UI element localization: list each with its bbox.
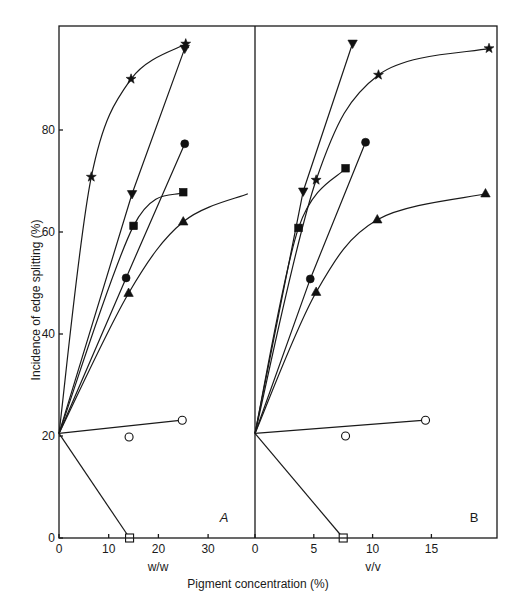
edge-splitting-chart: 0102030 051015 020406080 Incidence of ed…	[0, 0, 518, 598]
triangle-up-marker-icon	[311, 287, 320, 295]
y-axis-title: Incidence of edge splitting (%)	[29, 220, 43, 381]
panel-a-unit-label: w/w	[147, 560, 169, 574]
x-tick-label: 0	[252, 542, 259, 556]
circle-filled-marker-icon	[306, 275, 314, 283]
triangle-down-marker-icon	[127, 191, 136, 199]
panel-b-unit-label: v/v	[365, 560, 380, 574]
triangle-down-marker-icon	[348, 40, 357, 48]
x-tick-label: 5	[310, 542, 317, 556]
x-tick-label: 10	[102, 542, 116, 556]
triangle-up-series-line	[59, 194, 248, 434]
x-tick-label: 10	[366, 542, 380, 556]
triangle-down-series-line	[255, 43, 353, 433]
star-series-line	[255, 48, 489, 433]
circle-open-marker-icon	[422, 416, 430, 424]
square-open-series-line	[255, 433, 343, 538]
circle-open-series-line	[255, 420, 426, 433]
panel-b-letter: B	[470, 510, 479, 525]
square-filled-marker-icon	[342, 164, 350, 172]
square-filled-marker-icon	[179, 188, 187, 196]
square-filled-marker-icon	[295, 224, 303, 232]
x-axis-title: Pigment concentration (%)	[187, 577, 328, 591]
star-marker-icon	[311, 175, 321, 184]
triangle-down-marker-icon	[180, 45, 189, 53]
star-marker-icon	[484, 43, 494, 52]
panel-a-letter: A	[219, 510, 229, 525]
y-tick-label: 40	[42, 327, 56, 341]
panel-b: 051015	[252, 40, 494, 556]
circle-open-marker-icon	[342, 432, 350, 440]
triangle-up-marker-icon	[481, 189, 490, 197]
circle-filled-marker-icon	[362, 138, 370, 146]
triangle-up-marker-icon	[179, 217, 188, 225]
panel-a: 0102030	[56, 39, 248, 556]
circle-filled-marker-icon	[181, 140, 189, 148]
circle-filled-marker-icon	[122, 274, 130, 282]
y-tick-label: 20	[42, 429, 56, 443]
y-tick-label: 60	[42, 225, 56, 239]
triangle-up-marker-icon	[373, 215, 382, 223]
x-tick-label: 15	[425, 542, 439, 556]
triangle-up-series-line	[255, 194, 485, 434]
circle-open-series-line	[59, 420, 182, 433]
circle-filled-series-line	[255, 142, 366, 433]
x-tick-label: 20	[152, 542, 166, 556]
x-tick-label: 30	[201, 542, 215, 556]
square-open-series-line	[59, 433, 130, 538]
square-filled-marker-icon	[130, 222, 138, 230]
y-tick-label: 80	[42, 123, 56, 137]
circle-filled-series-line	[59, 144, 185, 434]
circle-open-marker-icon	[178, 416, 186, 424]
triangle-up-marker-icon	[124, 288, 133, 296]
triangle-down-marker-icon	[299, 188, 308, 196]
circle-open-marker-icon	[125, 433, 133, 441]
y-tick-label: 0	[48, 531, 55, 545]
x-tick-label: 0	[56, 542, 63, 556]
